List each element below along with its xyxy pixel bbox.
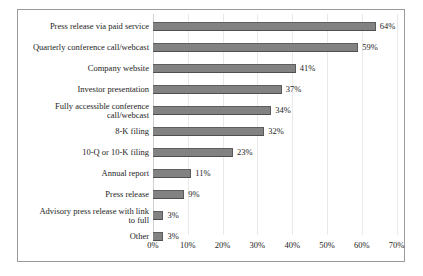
bar-value-label: 37% (286, 85, 302, 94)
category-label: Press release (0, 190, 149, 200)
bar-fill (153, 169, 191, 178)
bar-row: Press release via paid service64% (153, 16, 397, 37)
bar (153, 148, 233, 157)
bar-value-label: 9% (188, 190, 199, 199)
bar-value-label: 23% (237, 148, 253, 157)
bar (153, 211, 163, 220)
category-label: Annual report (0, 169, 149, 179)
bar-fill (153, 106, 271, 115)
bar-row: Advisory press release with link to full… (153, 205, 397, 226)
bar-value-label: 11% (195, 169, 210, 178)
x-tick-label: 0% (147, 240, 158, 250)
plot-area: Press release via paid service64%Quarter… (153, 14, 397, 235)
bar-fill (153, 43, 358, 52)
bar-fill (153, 148, 233, 157)
bar-fill (153, 22, 376, 31)
category-label: Investor presentation (0, 85, 149, 95)
bar (153, 64, 296, 73)
bar-row: 8-K filing32% (153, 121, 397, 142)
x-tick-label: 60% (354, 240, 370, 250)
bar-row: Annual report11% (153, 163, 397, 184)
category-label: Fully accessible conference call/webcast (0, 101, 149, 120)
x-tick-label: 50% (319, 240, 335, 250)
bar (153, 127, 264, 136)
bar-value-label: 41% (300, 64, 316, 73)
x-tick-label: 10% (180, 240, 196, 250)
bar (153, 190, 184, 199)
bar-rows: Press release via paid service64%Quarter… (153, 14, 397, 235)
bar-value-label: 59% (362, 43, 378, 52)
x-tick-label: 20% (215, 240, 231, 250)
bar-row: Press release9% (153, 184, 397, 205)
chart-frame: Press release via paid service64%Quarter… (17, 9, 405, 262)
category-label: Advisory press release with link to full (0, 206, 149, 225)
bar-row: Fully accessible conference call/webcast… (153, 100, 397, 121)
x-axis: 0%10%20%30%40%50%60%70% (153, 240, 397, 254)
gridline (397, 14, 398, 235)
category-label: Quarterly conference call/webcast (0, 43, 149, 53)
bar-row: Company website41% (153, 58, 397, 79)
bar-fill (153, 190, 184, 199)
category-label: 8-K filing (0, 127, 149, 137)
category-label: Press release via paid service (0, 22, 149, 32)
bar (153, 106, 271, 115)
x-tick-label: 40% (284, 240, 300, 250)
bar (153, 43, 358, 52)
bar (153, 22, 376, 31)
bar-fill (153, 211, 163, 220)
bar (153, 85, 282, 94)
bar-fill (153, 127, 264, 136)
bar-value-label: 34% (275, 106, 291, 115)
x-tick-label: 70% (389, 240, 405, 250)
bar-row: Quarterly conference call/webcast59% (153, 37, 397, 58)
bar-fill (153, 85, 282, 94)
bar-value-label: 64% (380, 22, 396, 31)
bar (153, 169, 191, 178)
category-label: Company website (0, 64, 149, 74)
category-label: 10-Q or 10-K filing (0, 148, 149, 158)
bar-row: Investor presentation37% (153, 79, 397, 100)
bar-value-label: 32% (268, 127, 284, 136)
bar-value-label: 3% (167, 211, 178, 220)
bar-row: 10-Q or 10-K filing23% (153, 142, 397, 163)
x-tick-label: 30% (250, 240, 266, 250)
bar-fill (153, 64, 296, 73)
category-label: Other (0, 232, 149, 242)
